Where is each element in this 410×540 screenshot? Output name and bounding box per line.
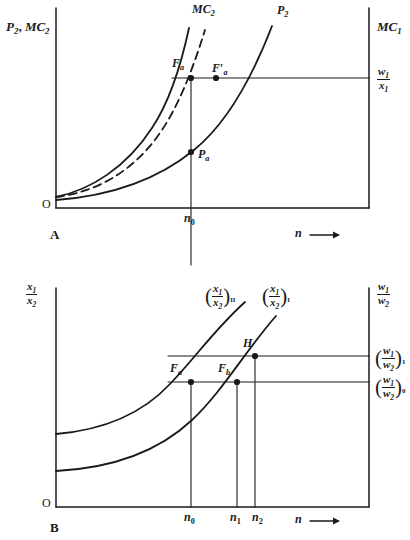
point-label-fa-a: Fa xyxy=(172,57,184,72)
panel-b-label: B xyxy=(50,521,59,534)
point-label-h-b: H xyxy=(243,337,252,349)
point-fa-b xyxy=(188,379,194,385)
panel-b-right-line-label-1: ( w1 w2 )1 xyxy=(375,345,405,372)
curve-label-x1x2-II: ( x1 x2 )II xyxy=(205,283,235,310)
panel-b-xtick-n2: n2 xyxy=(252,511,263,526)
panel-b-xtick-n0: n0 xyxy=(184,511,195,526)
point-label-fb-b: Fb xyxy=(218,362,230,377)
point-h-b xyxy=(252,353,258,359)
panel-a-right-line-label: w1 x1 xyxy=(377,66,390,93)
figure-container: P2, MC2 MC1 MC2 P2 Fa F′a Pa w1 x1 O n0 … xyxy=(0,0,410,540)
figure-drawing xyxy=(0,0,410,540)
curve-x1x2-II xyxy=(56,302,245,434)
curve-label-p2: P2 xyxy=(277,4,288,19)
panel-b-origin-label: O xyxy=(42,497,51,509)
panel-a-x-axis-label: n xyxy=(295,227,302,239)
panel-b-x-arrow-head xyxy=(333,518,340,525)
point-label-fa-b: Fa xyxy=(170,362,182,377)
point-fb-b xyxy=(234,379,240,385)
panel-b-right-line-label-0: ( w1 w2 )0 xyxy=(375,374,405,401)
panel-a-y-axis-label-right: MC1 xyxy=(377,20,402,36)
curve-p2 xyxy=(56,26,272,200)
panel-b-xtick-n1: n1 xyxy=(230,511,241,526)
point-label-fa-prime-a: F′a xyxy=(212,62,227,77)
curve-label-x1x2-I: ( x1 x2 )I xyxy=(262,283,290,310)
panel-b-x-axis-label: n xyxy=(295,513,302,525)
panel-a-origin-label: O xyxy=(42,198,51,210)
panel-a-label: A xyxy=(50,228,59,241)
panel-b-y-axis-label-right: w1 w2 xyxy=(377,281,390,308)
point-pa-a xyxy=(188,149,194,155)
curve-label-mc2: MC2 xyxy=(192,3,215,18)
panel-a-x-arrow-head xyxy=(333,232,340,239)
panel-b-y-axis-label-left: x1 x2 xyxy=(26,281,37,308)
point-fa-a xyxy=(188,75,194,81)
panel-a-xtick-n0: n0 xyxy=(184,212,195,227)
point-label-pa-a: Pa xyxy=(198,148,209,163)
panel-a-y-axis-label-left: P2, MC2 xyxy=(6,20,50,36)
